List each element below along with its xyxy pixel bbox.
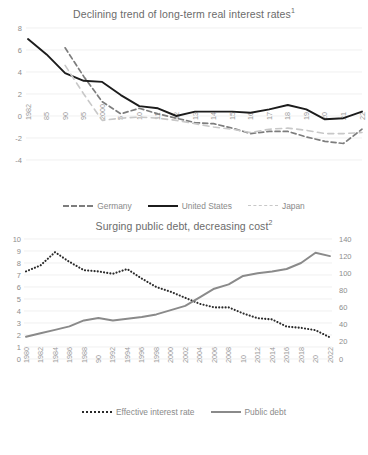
x-axis-tick-label: 95 [79,112,88,120]
y-axis-tick-label: 6 [18,45,22,54]
x-axis-tick-label: 17 [265,112,274,120]
chart1-plot-area: 86420-2-41982859095200051011121314151617… [0,20,368,205]
y-axis-right-tick-label: 60 [339,303,347,312]
x-axis-tick-label: 14 [209,112,218,120]
figure-container: Declining trend of long-term real intere… [0,0,368,417]
legend-swatch-icon [63,205,93,207]
x-axis-tick-label: 10 [135,112,144,120]
x-axis-tick-label: 2000 [166,347,175,363]
x-axis-tick-label: 1988 [80,347,89,363]
x-axis-tick-label: 18 [283,112,292,120]
y-axis-tick-label: 4 [18,67,22,76]
x-axis-tick-label: 1982 [36,347,45,363]
y-axis-tick-label: -4 [15,155,22,164]
y-axis-left-tick-label: 6 [17,283,21,292]
y-axis-tick-label: 8 [18,23,22,32]
x-axis-tick-label: 90 [61,112,70,120]
x-axis-tick-label: 1994 [123,347,132,363]
x-axis-tick-label: 2012 [253,347,262,363]
x-axis-tick-label: 20 [311,355,320,363]
legend-item[interactable]: Public debt [211,407,286,417]
x-axis-tick-label: 19 [302,112,311,120]
x-axis-tick-label: 90 [94,355,103,363]
y-axis-right-tick-label: 140 [339,235,352,244]
y-axis-left-tick-label: 10 [13,235,21,244]
x-axis-tick-label: 1984 [51,347,60,363]
y-axis-left-tick-label: 3 [17,319,21,328]
chart1-title-superscript: 1 [291,7,295,14]
x-axis-tick-label: 10 [239,355,248,363]
x-axis-tick-label: 1982 [24,104,33,120]
chart2-plot-area: 1098765432101401201008060402001980198219… [0,231,368,406]
legend-swatch-icon [248,205,278,206]
y-axis-left-tick-label: 9 [17,247,21,256]
x-axis-tick-label: 2018 [297,347,306,363]
x-axis-tick-label: 2014 [268,347,277,363]
chart2-title-text: Surging public debt, decreasing cost [96,219,269,231]
chart2-svg: 1098765432101401201008060402001980198219… [0,231,368,406]
x-axis-tick-label: 1986 [65,347,74,363]
x-axis-tick-label: 2002 [181,347,190,363]
chart2-title-superscript: 2 [268,219,272,226]
y-axis-tick-label: 0 [18,111,22,120]
y-axis-left-tick-label: 4 [17,307,21,316]
series-line-germany [65,47,362,143]
y-axis-tick-label: 2 [18,89,22,98]
y-axis-tick-label: -2 [15,133,22,142]
series-line-united-states [28,39,362,119]
y-axis-right-tick-label: 100 [339,269,352,278]
legend-label: Effective interest rate [116,407,195,417]
x-axis-tick-label: 1996 [137,347,146,363]
x-axis-tick-label: 2016 [282,347,291,363]
x-axis-tick-label: 1998 [152,347,161,363]
x-axis-tick-label: 2008 [224,347,233,363]
x-axis-tick-label: 15 [228,112,237,120]
y-axis-left-tick-label: 1 [17,343,21,352]
chart2-legend: Effective interest ratePublic debt [0,407,368,417]
y-axis-left-tick-label: 5 [17,295,21,304]
x-axis-tick-label: 2006 [210,347,219,363]
y-axis-right-tick-label: 80 [339,286,347,295]
legend-label: Public debt [245,407,286,417]
legend-swatch-icon [148,205,178,207]
y-axis-left-tick-label: 7 [17,271,21,280]
y-axis-right-tick-label: 40 [339,320,347,329]
x-axis-tick-label: 2000 [98,104,107,120]
y-axis-right-tick-label: 20 [339,337,347,346]
legend-item[interactable]: Effective interest rate [82,407,195,417]
chart1-title: Declining trend of long-term real intere… [0,0,368,20]
y-axis-right-tick-label: 120 [339,252,352,261]
y-axis-left-tick-label: 2 [17,331,21,340]
legend-swatch-icon [211,411,241,413]
y-axis-left-tick-label: 8 [17,259,21,268]
chart1-svg: 86420-2-41982859095200051011121314151617… [0,20,368,205]
y-axis-right-tick-label: 0 [339,355,343,364]
legend-swatch-icon [82,411,112,413]
x-axis-tick-label: 2004 [195,347,204,363]
x-axis-tick-label: 2022 [326,347,335,363]
x-axis-tick-label: 1980 [22,347,31,363]
x-axis-tick-label: 85 [42,112,51,120]
chart2-title: Surging public debt, decreasing cost2 [0,211,368,232]
y-axis-left-tick-label: 0 [17,355,21,364]
x-axis-tick-label: 1992 [108,347,117,363]
series-line-public-debt [26,253,330,337]
chart1-title-text: Declining trend of long-term real intere… [73,8,291,20]
